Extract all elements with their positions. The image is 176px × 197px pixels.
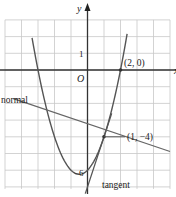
normal-label: normal bbox=[1, 95, 28, 105]
tick-label-1: 1 bbox=[79, 49, 84, 59]
point-b-label: (1, −4) bbox=[127, 132, 153, 143]
graph: y x O 1 −6 (2, 0) (1, −4) normal tangent bbox=[0, 0, 176, 197]
origin-label: O bbox=[77, 73, 84, 84]
tangent-label: tangent bbox=[102, 180, 130, 190]
y-axis-label: y bbox=[76, 3, 82, 14]
y-axis-arrow-icon bbox=[85, 3, 91, 11]
point-2-0 bbox=[119, 68, 123, 72]
point-a-label: (2, 0) bbox=[124, 58, 145, 69]
normal-line bbox=[13, 99, 170, 152]
x-axis-label: x bbox=[173, 65, 176, 76]
tick-label-neg6: −6 bbox=[74, 168, 84, 178]
